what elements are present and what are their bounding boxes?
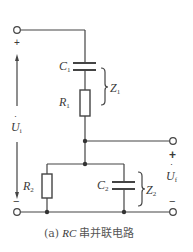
junction-bottom-right (122, 210, 126, 214)
junction-parallel-top (83, 162, 87, 166)
input-minus-sign: − (13, 195, 19, 207)
output-positive-terminal (170, 138, 177, 145)
z1-brace-icon (101, 68, 108, 105)
r2-resistor (42, 174, 52, 198)
figure-caption: (a)RC串并联电路 (44, 226, 134, 240)
r2-label: R2 (22, 179, 34, 194)
output-minus-sign: − (169, 195, 175, 207)
c1-label: C1 (59, 59, 71, 74)
rc-series-parallel-circuit: C1 R1 Z1 R2 C2 Z2 + Ui · (0, 0, 193, 252)
input-plus-sign: + (14, 37, 20, 48)
z2-brace-icon (138, 172, 145, 206)
input-voltage-label: Ui (11, 120, 22, 135)
output-negative-terminal (170, 209, 177, 216)
r1-resistor (80, 90, 90, 116)
z2-label: Z2 (146, 183, 157, 198)
junction-bottom-left (45, 210, 49, 214)
c2-label: C2 (97, 178, 109, 193)
output-voltage-dot: · (170, 159, 173, 169)
r1-label: R1 (58, 95, 70, 110)
input-voltage-dot: · (14, 111, 17, 121)
output-voltage-label: Uf (166, 169, 178, 184)
junction-output (83, 139, 87, 143)
z1-label: Z1 (110, 81, 121, 96)
input-arrow-up-icon (15, 54, 19, 61)
input-negative-terminal (14, 209, 21, 216)
input-positive-terminal (14, 27, 21, 34)
